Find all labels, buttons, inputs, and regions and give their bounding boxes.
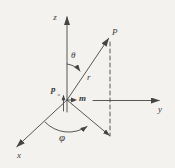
y-axis-label: y: [157, 104, 162, 114]
dipole-p-arrowhead: [62, 95, 66, 101]
theta-arc: [67, 64, 80, 71]
dipole-p-label: p: [50, 84, 56, 94]
theta-label: θ: [71, 50, 76, 60]
dipole-m-label: m: [79, 93, 86, 103]
point-p-label: P: [111, 27, 118, 37]
z-axis-label: z: [52, 12, 57, 22]
spherical-coordinate-figure: z y x P r θ φ p o m: [0, 0, 175, 168]
radial-r-label: r: [87, 72, 91, 82]
phi-arc: [45, 122, 87, 132]
dipole-m-arrowhead: [71, 98, 77, 103]
radial-line-r: [67, 39, 109, 101]
projection-line: [67, 100, 110, 136]
phi-label: φ: [59, 131, 65, 143]
figure-canvas: z y x P r θ φ p o m: [0, 0, 175, 168]
dipole-p-subscript: o: [58, 92, 61, 97]
x-axis-label: x: [16, 150, 21, 160]
